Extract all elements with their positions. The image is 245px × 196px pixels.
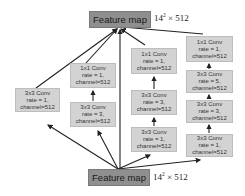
conv-block: 3x3 Conv rate = 1, channel=512	[186, 134, 233, 157]
feature-map-top: Feature map	[89, 11, 151, 28]
conv-block: 3x3 Conv rate = 5, channel=512	[186, 70, 233, 93]
feature-map-bottom: Feature map	[88, 169, 150, 186]
conv-block: 3x3 Conv rate = 1, channel=512	[15, 88, 60, 112]
conv-block: 1x1 Conv rate = 1, channel=512	[131, 48, 177, 74]
feature-map-bottom-label: Feature map	[92, 172, 146, 183]
conv-block: 1x1 Conv rate = 1, channel=512	[70, 63, 116, 88]
feature-map-top-label: Feature map	[93, 14, 147, 25]
feature-map-top-dims: 142 × 512	[154, 12, 189, 23]
conv-block: 3x3 Conv rate = 3, channel=512	[70, 102, 116, 127]
feature-map-bottom-dims: 142 × 512	[153, 171, 188, 182]
conv-block: 3x3 Conv rate = 3, channel=512	[186, 100, 233, 123]
conv-block: 3x3 Conv rate = 1, channel=512	[131, 127, 177, 152]
conv-block: 3x3 Conv rate = 3, channel=512	[131, 90, 177, 115]
conv-block: 1x1 Conv rate = 1, channel=512	[186, 36, 233, 62]
